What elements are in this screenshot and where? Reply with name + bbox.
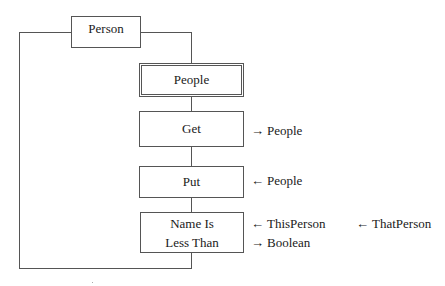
get-label: Get — [182, 121, 201, 137]
connector-bottom-horizontal — [19, 268, 192, 269]
put-box: Put — [139, 166, 244, 198]
connector-left-horizontal — [19, 32, 71, 33]
boolean-output-label: Boolean — [267, 235, 310, 250]
get-output-label: People — [267, 123, 302, 138]
arrow-left-icon: ← — [251, 173, 264, 189]
scan-artifact-dot — [92, 282, 93, 283]
arrow-left-icon: ← — [356, 216, 369, 232]
that-person-param: ←ThatPerson — [356, 216, 431, 232]
name-is-less-than-box: Name Is Less Than — [140, 212, 244, 253]
that-person-label: ThatPerson — [372, 216, 431, 231]
connector-right-vertical — [191, 32, 192, 63]
connector-put-nameis — [191, 197, 192, 212]
get-box: Get — [139, 111, 244, 147]
connector-people-get — [191, 96, 192, 111]
person-box: Person — [71, 16, 141, 48]
put-input-label: People — [267, 173, 302, 188]
people-box: People — [139, 63, 244, 97]
less-than-label: Less Than — [165, 233, 219, 252]
arrow-right-icon: → — [251, 235, 264, 251]
this-person-label: ThisPerson — [267, 216, 326, 231]
put-input-param: ←People — [251, 173, 302, 189]
connector-nameis-bottom — [191, 252, 192, 268]
person-label: Person — [88, 21, 123, 37]
connector-get-put — [191, 146, 192, 166]
name-is-label: Name Is — [170, 214, 214, 233]
arrow-left-icon: ← — [251, 216, 264, 232]
this-person-param: ←ThisPerson — [251, 216, 326, 232]
people-label: People — [174, 72, 209, 88]
connector-right-horizontal — [140, 32, 192, 33]
connector-left-vertical — [19, 32, 20, 268]
boolean-output-param: →Boolean — [251, 235, 310, 251]
get-output-param: →People — [251, 123, 302, 139]
put-label: Put — [183, 174, 200, 190]
arrow-right-icon: → — [251, 123, 264, 139]
